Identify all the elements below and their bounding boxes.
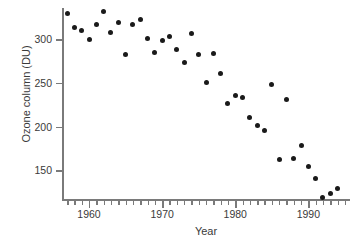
x-tick-1974 bbox=[191, 201, 192, 205]
data-point bbox=[160, 38, 165, 43]
x-tick-1982 bbox=[250, 201, 251, 205]
data-point bbox=[313, 176, 318, 181]
data-point bbox=[240, 95, 245, 100]
x-tick-1978 bbox=[221, 201, 222, 205]
data-point bbox=[182, 60, 187, 65]
x-tick-label-1960: 1960 bbox=[69, 209, 109, 220]
x-tick-1995 bbox=[345, 201, 346, 205]
x-tick-1967 bbox=[140, 201, 141, 205]
x-tick-1994 bbox=[338, 201, 339, 205]
x-tick-1993 bbox=[330, 201, 331, 205]
x-tick-1976 bbox=[206, 201, 207, 205]
x-tick-label-1980: 1980 bbox=[215, 209, 255, 220]
data-point bbox=[196, 52, 201, 57]
x-tick-1975 bbox=[199, 201, 200, 205]
data-point bbox=[204, 80, 209, 85]
x-tick-1960 bbox=[89, 201, 90, 208]
x-tick-1988 bbox=[294, 201, 295, 205]
y-tick-label-200: 200 bbox=[12, 122, 52, 133]
x-tick-1986 bbox=[279, 201, 280, 205]
x-tick-label-1990: 1990 bbox=[288, 209, 328, 220]
x-tick-1970 bbox=[162, 201, 163, 208]
data-point bbox=[65, 11, 70, 16]
data-point bbox=[138, 17, 143, 22]
y-tick-label-250: 250 bbox=[12, 78, 52, 89]
x-tick-label-1970: 1970 bbox=[142, 209, 182, 220]
data-point bbox=[262, 128, 267, 133]
data-point bbox=[233, 93, 238, 98]
x-tick-1972 bbox=[177, 201, 178, 205]
data-point bbox=[174, 47, 179, 52]
data-point bbox=[189, 31, 194, 36]
x-tick-1962 bbox=[104, 201, 105, 205]
data-point bbox=[255, 123, 260, 128]
x-tick-1959 bbox=[82, 201, 83, 205]
plot-area bbox=[62, 8, 350, 200]
data-point bbox=[277, 157, 282, 162]
x-tick-1971 bbox=[169, 201, 170, 205]
data-point bbox=[123, 52, 128, 57]
x-tick-1990 bbox=[308, 201, 309, 208]
x-tick-1964 bbox=[118, 201, 119, 205]
x-tick-1963 bbox=[111, 201, 112, 205]
x-tick-1992 bbox=[323, 201, 324, 205]
x-tick-1965 bbox=[126, 201, 127, 205]
x-tick-1987 bbox=[286, 201, 287, 205]
x-tick-1977 bbox=[213, 201, 214, 205]
x-tick-1985 bbox=[272, 201, 273, 205]
x-axis-title: Year bbox=[62, 225, 350, 237]
x-tick-1989 bbox=[301, 201, 302, 205]
x-tick-1973 bbox=[184, 201, 185, 205]
x-tick-1969 bbox=[155, 201, 156, 205]
y-axis-title: Ozone column (DU) bbox=[20, 19, 32, 169]
x-tick-1980 bbox=[235, 201, 236, 208]
data-point bbox=[284, 97, 289, 102]
x-tick-1984 bbox=[264, 201, 265, 205]
x-tick-1991 bbox=[316, 201, 317, 205]
x-tick-1968 bbox=[148, 201, 149, 205]
data-point bbox=[299, 143, 304, 148]
y-tick-label-150: 150 bbox=[12, 165, 52, 176]
ozone-column-scatter-chart: 150200250300 1960197019801990 Ozone colu… bbox=[0, 0, 360, 247]
y-tick-label-300: 300 bbox=[12, 34, 52, 45]
data-point bbox=[72, 25, 77, 30]
x-tick-1983 bbox=[257, 201, 258, 205]
data-point bbox=[211, 51, 216, 56]
data-point bbox=[94, 22, 99, 27]
x-tick-1958 bbox=[74, 201, 75, 205]
x-tick-1957 bbox=[67, 201, 68, 205]
x-tick-1981 bbox=[243, 201, 244, 205]
x-tick-1961 bbox=[96, 201, 97, 205]
data-point bbox=[87, 37, 92, 42]
x-tick-1966 bbox=[133, 201, 134, 205]
x-tick-1979 bbox=[228, 201, 229, 205]
